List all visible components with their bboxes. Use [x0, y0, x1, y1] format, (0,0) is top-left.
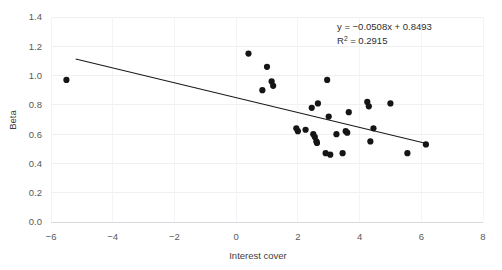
data-point	[302, 127, 308, 133]
data-point	[315, 100, 321, 106]
data-point	[387, 100, 393, 106]
x-tick-label: −2	[169, 231, 180, 242]
data-point	[309, 105, 315, 111]
data-point	[324, 77, 330, 83]
x-tick-label: −4	[107, 231, 118, 242]
data-point	[295, 128, 301, 134]
y-tick-label: 0.6	[29, 129, 42, 140]
data-point	[344, 130, 350, 136]
r-squared-label: R2 = 0.2915	[337, 35, 387, 47]
data-point	[404, 150, 410, 156]
data-point	[270, 83, 276, 89]
x-tick-label: 2	[295, 231, 300, 242]
y-tick-label: 1.0	[29, 70, 42, 81]
y-axis-tick-labels: 0.00.20.40.60.81.01.21.4	[29, 11, 42, 227]
data-point	[314, 140, 320, 146]
data-point	[370, 125, 376, 131]
data-point	[346, 109, 352, 115]
x-tick-label: 6	[419, 231, 424, 242]
y-tick-label: 0.2	[29, 187, 42, 198]
data-point	[327, 152, 333, 158]
data-point	[63, 77, 69, 83]
x-tick-label: −6	[46, 231, 57, 242]
r-squared-value: = 0.2915	[348, 35, 388, 46]
data-points	[63, 51, 429, 158]
y-tick-label: 0.8	[29, 99, 42, 110]
data-point	[367, 138, 373, 144]
data-point	[423, 141, 429, 147]
y-tick-label: 1.2	[29, 41, 42, 52]
scatter-chart: 0.00.20.40.60.81.01.21.4 −6−4−202468 Bet…	[0, 0, 502, 270]
data-point	[340, 150, 346, 156]
x-axis-title: Interest cover	[229, 250, 287, 261]
y-tick-label: 0.4	[29, 158, 42, 169]
x-axis-tick-labels: −6−4−202468	[46, 231, 486, 242]
data-point	[264, 64, 270, 70]
data-point	[366, 103, 372, 109]
regression-annotation: y = −0.0508x + 0.8493 R2 = 0.2915	[337, 21, 432, 46]
data-point	[245, 51, 251, 57]
x-tick-label: 0	[233, 231, 238, 242]
data-point	[326, 113, 332, 119]
data-point	[259, 87, 265, 93]
data-point	[333, 131, 339, 137]
horizontal-gridlines	[51, 17, 483, 222]
vertical-gridlines	[51, 17, 483, 222]
regression-equation: y = −0.0508x + 0.8493	[337, 21, 432, 32]
y-tick-label: 0.0	[29, 216, 42, 227]
y-tick-label: 1.4	[29, 11, 42, 22]
x-tick-label: 4	[357, 231, 362, 242]
chart-canvas: 0.00.20.40.60.81.01.21.4 −6−4−202468 Bet…	[0, 0, 502, 270]
x-tick-label: 8	[480, 231, 485, 242]
y-axis-title: Beta	[7, 110, 18, 130]
